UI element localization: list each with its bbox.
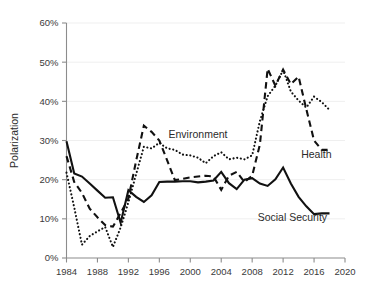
x-tick-label: 2000 [180,266,201,277]
x-tick-label: 2012 [273,266,294,277]
series-label-social-security: Social Security [258,211,328,223]
y-tick-label: 60% [39,17,59,28]
x-tick-label: 2008 [242,266,263,277]
y-tick-label: 0% [45,252,59,263]
chart-canvas: 0%10%20%30%40%50%60%19841988199219962000… [0,0,371,289]
x-axis: 1984198819921996200020042008201220162020 [56,258,356,277]
y-tick-label: 10% [39,213,59,224]
y-axis-title-group: Polarization [8,113,20,168]
y-tick-label: 40% [39,96,59,107]
polarization-line-chart: 0%10%20%30%40%50%60%19841988199219962000… [0,0,371,289]
series-line-health [67,69,330,227]
y-tick-label: 20% [39,174,59,185]
y-axis: 0%10%20%30%40%50%60% [39,17,66,263]
x-tick-label: 2016 [303,266,324,277]
y-axis-title: Polarization [8,113,20,168]
gridlines [67,23,346,219]
y-tick-label: 50% [39,57,59,68]
x-tick-label: 1984 [56,266,77,277]
x-tick-label: 2020 [334,266,355,277]
x-tick-label: 1996 [149,266,170,277]
series-label-environment: Environment [169,128,228,140]
x-tick-label: 2004 [211,266,232,277]
y-tick-label: 30% [39,135,59,146]
series-label-health: Health [301,148,332,160]
x-tick-label: 1992 [118,266,139,277]
x-tick-label: 1988 [87,266,108,277]
